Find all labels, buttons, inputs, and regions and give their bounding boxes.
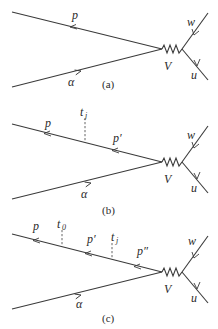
interaction-spring-v bbox=[162, 158, 182, 166]
label-alpha: α bbox=[68, 75, 75, 89]
label-p-double-prime: p″ bbox=[136, 244, 149, 258]
label-t0-sub: 0 bbox=[62, 223, 66, 232]
panel-a: p α V w u (a) bbox=[12, 8, 208, 91]
incoming-line-alpha bbox=[12, 49, 162, 87]
interaction-spring-v bbox=[162, 268, 182, 276]
label-alpha: α bbox=[76, 297, 83, 311]
label-tj-sub: j bbox=[115, 236, 119, 245]
label-p-prime: p′ bbox=[112, 131, 122, 145]
label-v: V bbox=[164, 59, 173, 73]
label-w: w bbox=[187, 128, 195, 142]
label-tj: t bbox=[111, 230, 115, 244]
panel-b: p p′ t j α V w u (b) bbox=[12, 105, 208, 217]
label-p: p bbox=[32, 219, 39, 233]
caption-c: (c) bbox=[102, 312, 115, 325]
label-w: w bbox=[188, 234, 196, 248]
label-p: p bbox=[71, 8, 78, 22]
label-t-sub-j: j bbox=[84, 111, 88, 120]
label-u: u bbox=[191, 68, 197, 82]
label-t: t bbox=[80, 105, 84, 119]
label-t0: t bbox=[57, 217, 61, 231]
outgoing-line-p bbox=[12, 124, 162, 162]
label-alpha: α bbox=[81, 187, 88, 201]
caption-a: (a) bbox=[102, 78, 115, 91]
panel-c: p t 0 p′ t j p″ α V w u (c) bbox=[12, 217, 208, 325]
label-u: u bbox=[191, 181, 197, 195]
interaction-spring-v bbox=[162, 45, 182, 53]
label-u: u bbox=[191, 291, 197, 305]
label-w: w bbox=[187, 15, 195, 29]
label-p: p bbox=[44, 116, 51, 130]
feynman-diagram-figure: p α V w u (a) p p′ t j α V w u (b) bbox=[0, 0, 218, 329]
incoming-line-alpha bbox=[12, 272, 162, 309]
label-v: V bbox=[164, 282, 173, 296]
arrow-right-icon bbox=[85, 181, 92, 187]
caption-b: (b) bbox=[102, 204, 115, 217]
label-v: V bbox=[164, 172, 173, 186]
outgoing-line-p bbox=[12, 12, 162, 49]
label-p-prime: p′ bbox=[86, 232, 96, 246]
